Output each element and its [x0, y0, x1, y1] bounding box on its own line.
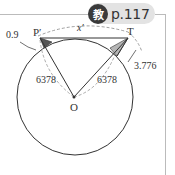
pointer-0-9 — [20, 42, 36, 50]
label-o: O — [70, 101, 78, 113]
label-x-prime: x′ — [76, 22, 84, 33]
label-height-left: 0.9 — [6, 29, 19, 40]
earth-geometry-diagram: 0.9 P′ x′ T 3.776 6378 6378 O — [0, 0, 175, 175]
label-height-right: 3.776 — [134, 60, 157, 71]
shade-left — [40, 38, 52, 48]
label-radius-right: 6378 — [97, 74, 117, 85]
radius-left — [40, 38, 74, 97]
label-t: T — [127, 25, 134, 37]
radius-right — [74, 38, 128, 97]
label-p-prime: P′ — [33, 26, 42, 38]
label-radius-left: 6378 — [36, 74, 56, 85]
center-point — [73, 96, 76, 99]
